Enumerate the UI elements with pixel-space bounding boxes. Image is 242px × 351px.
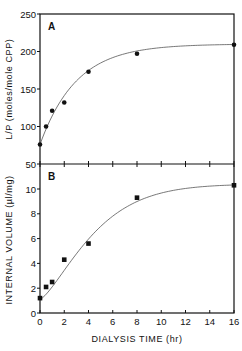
data-point [232,183,237,188]
data-point [86,241,91,246]
panel-b-y-axis-title: INTERNAL VOLUME (µl/mg) [4,175,14,304]
data-point [232,42,237,47]
y-tick-label: 150 [20,84,36,95]
data-point [86,69,91,74]
y-tick-label: 6 [31,233,36,244]
data-point [135,195,140,200]
x-tick-label: 10 [156,316,167,327]
y-tick-label: 100 [20,121,36,132]
y-tick-label: 8 [31,208,36,219]
data-point [50,108,55,113]
panel-b-fit-curve [40,185,234,299]
panel-b-label: B [48,171,55,182]
fitted-curves [40,44,234,299]
y-tick-label: 200 [20,46,36,57]
data-point [38,142,43,147]
y-tick-label: 250 [20,9,36,20]
chart-figure: 5010015020025002468100246810121416 A B L… [0,0,242,351]
y-tick-label: 50 [25,159,36,170]
x-tick-label: 2 [62,316,67,327]
x-tick-label: 14 [204,316,215,327]
panel-a-y-axis-title: L/P (moles/mole CPP) [4,39,14,140]
x-tick-label: 8 [134,316,139,327]
y-tick-label: 4 [31,258,36,269]
x-tick-label: 6 [110,316,115,327]
panel-a-fit-curve [40,44,234,144]
y-tick-label: 0 [31,308,36,319]
data-point [50,280,55,285]
data-point [135,51,140,56]
x-tick-label: 16 [229,316,240,327]
x-axis-title: DIALYSIS TIME (hr) [92,334,183,344]
y-tick-label: 10 [25,184,36,195]
data-point [44,124,49,129]
data-point [62,257,67,262]
x-tick-label: 0 [37,316,42,327]
data-point [38,296,43,301]
y-tick-label: 2 [31,283,36,294]
axis-tick-labels: 5010015020025002468100246810121416 [20,9,239,328]
panel-a-label: A [48,21,55,32]
data-points [38,42,237,300]
data-point [62,100,67,105]
data-point [44,285,49,290]
x-tick-label: 4 [86,316,91,327]
x-tick-label: 12 [180,316,191,327]
